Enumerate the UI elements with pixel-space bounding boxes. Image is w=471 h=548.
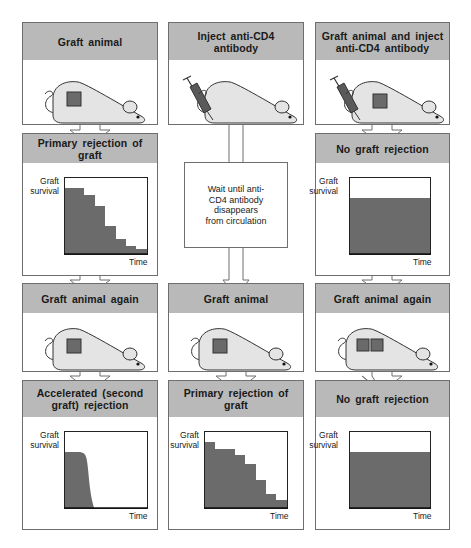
step-header: Graft animal <box>168 283 304 314</box>
chart-panel: Graft survival Time <box>168 417 304 530</box>
mouse-panel <box>168 313 304 372</box>
step-decline-chart <box>64 177 148 255</box>
y-axis-label: Graft survival <box>25 177 59 196</box>
flat-survival-chart <box>349 431 431 509</box>
y-axis-label: Graft survival <box>165 431 199 450</box>
chart-panel: Graft survival Time <box>315 417 450 530</box>
mouse-icon <box>23 60 159 125</box>
y-axis-label: Graft survival <box>304 177 338 196</box>
step-header: Inject anti-CD4 antibody <box>168 22 304 61</box>
graft-square <box>213 339 227 353</box>
wait-note-box: Wait until anti- CD4 antibody disappears… <box>184 162 288 248</box>
graft-square <box>357 339 369 351</box>
x-axis-label: Time <box>413 258 432 268</box>
chart-panel: Graft survival Time <box>315 163 450 276</box>
step-header: Primary rejection of graft <box>168 380 304 418</box>
mouse-panel <box>22 313 158 372</box>
x-axis-label: Time <box>129 512 148 522</box>
step-header: No graft rejection <box>315 133 450 164</box>
graft-square <box>373 94 387 108</box>
step-decline-chart <box>204 431 288 509</box>
step-header: Graft animal and inject anti-CD4 antibod… <box>315 22 450 61</box>
chart-panel: Graft survival Time <box>22 417 158 530</box>
x-axis-label: Time <box>270 512 289 522</box>
mouse-panel <box>315 313 450 372</box>
mouse-panel <box>315 60 450 125</box>
step-header: No graft rejection <box>315 380 450 418</box>
step-header: Accelerated (second graft) rejection <box>22 380 158 418</box>
mouse-with-syringe-icon <box>169 60 305 125</box>
mouse-panel <box>22 60 158 125</box>
accelerated-decline-chart <box>64 431 148 509</box>
step-header: Graft animal again <box>315 283 450 314</box>
mouse-icon <box>169 313 305 372</box>
arrow-shaft <box>229 124 243 163</box>
mouse-icon <box>316 313 451 372</box>
chart-panel: Graft survival Time <box>22 163 158 276</box>
mouse-icon <box>23 313 159 372</box>
mouse-with-syringe-icon <box>316 60 451 125</box>
step-header: Graft animal again <box>22 283 158 314</box>
y-axis-label: Graft survival <box>304 431 338 450</box>
graft-square <box>67 92 81 106</box>
graft-square <box>371 339 383 351</box>
step-header: Primary rejection of graft <box>22 133 158 164</box>
step-header: Graft animal <box>22 22 158 61</box>
y-axis-label: Graft survival <box>25 431 59 450</box>
graft-square <box>67 339 81 353</box>
mouse-panel <box>168 60 304 125</box>
x-axis-label: Time <box>413 512 432 522</box>
x-axis-label: Time <box>129 258 148 268</box>
flat-survival-chart <box>349 177 431 255</box>
